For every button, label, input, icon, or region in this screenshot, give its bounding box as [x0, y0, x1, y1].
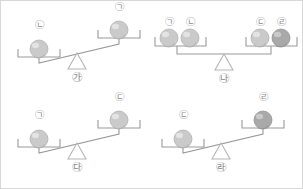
ball-label: ㉣ [256, 89, 271, 104]
fulcrum-label: ㉱ [212, 159, 229, 175]
ball-label: ㉠ [112, 0, 127, 14]
scale-na: ㉠ ㉡ ㉢ ㉣ ㉯ [153, 1, 303, 95]
ball-label: ㉡ [32, 17, 47, 32]
fulcrum-label: ㉯ [215, 70, 232, 86]
ball-light [181, 29, 199, 47]
ball-label: ㉣ [274, 14, 289, 29]
ball-light [160, 29, 178, 47]
ball-label: ㉢ [112, 89, 127, 104]
fulcrum-label: ㉮ [68, 69, 85, 85]
fulcrum-triangle [215, 54, 233, 70]
ball-light [30, 130, 48, 148]
ball-light [110, 111, 128, 129]
ball-label: ㉠ [162, 14, 177, 29]
ball-dark [254, 111, 272, 129]
ball-light [251, 29, 269, 47]
scale-da-drawing [1, 96, 152, 189]
scale-da: ㉠ ㉢ ㉰ [1, 96, 152, 189]
fulcrum-label: ㉰ [68, 159, 85, 175]
scale-ga: ㉡ ㉠ ㉮ [1, 1, 152, 95]
ball-label: ㉠ [32, 107, 47, 122]
ball-label: ㉢ [253, 14, 268, 29]
balance-scale-figure: ㉡ ㉠ ㉮ [0, 0, 303, 189]
ball-label: ㉡ [183, 14, 198, 29]
ball-dark [272, 29, 290, 47]
ball-light [174, 130, 192, 148]
ball-light [30, 40, 48, 58]
ball-light [110, 21, 128, 39]
scale-ra: ㉢ ㉣ ㉱ [153, 96, 303, 189]
ball-label: ㉢ [176, 107, 191, 122]
